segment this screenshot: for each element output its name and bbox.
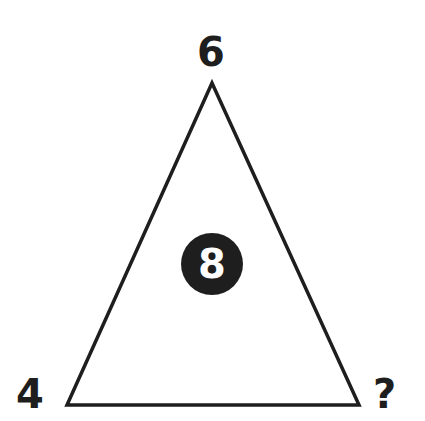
top-vertex-number: 6 (197, 32, 225, 72)
left-vertex-number: 4 (16, 374, 44, 414)
center-circle-badge: 8 (181, 233, 243, 295)
center-number: 8 (198, 244, 226, 284)
right-vertex-question-mark: ? (373, 374, 396, 414)
